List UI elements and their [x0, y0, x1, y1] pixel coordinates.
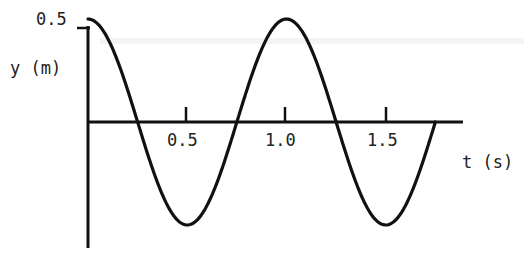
wave-chart: 0.5 y (m) 0.5 1.0 1.5 t (s)	[0, 0, 524, 254]
x-tick-label-1.5: 1.5	[367, 130, 398, 150]
y-axis-label: y (m)	[10, 58, 61, 78]
x-axis-label: t (s)	[462, 152, 513, 172]
y-tick-label: 0.5	[36, 9, 67, 29]
x-tick-label-1.0: 1.0	[265, 130, 296, 150]
x-tick-label-0.5: 0.5	[167, 130, 198, 150]
